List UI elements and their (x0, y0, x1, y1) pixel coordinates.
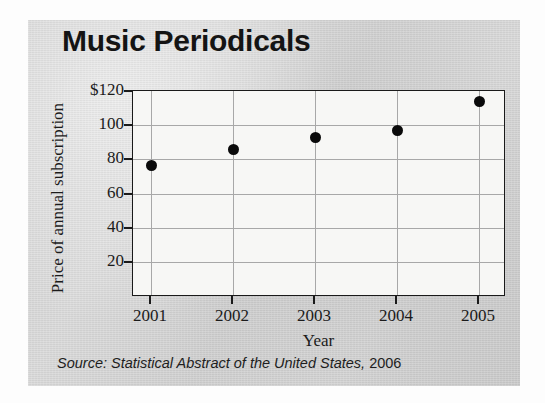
data-point (392, 125, 403, 136)
plot-area (132, 90, 505, 296)
gridline-vertical (479, 91, 480, 295)
gridline-vertical (151, 91, 152, 295)
gridline-horizontal (133, 125, 504, 126)
x-tick-label: 2004 (361, 306, 431, 326)
y-tick-label: $120 (64, 80, 124, 100)
x-tick-label: 2005 (443, 306, 513, 326)
source-note-year: 2006 (369, 355, 401, 371)
x-tick-mark (477, 295, 479, 304)
y-tick-label: 80 (64, 148, 124, 168)
gridline-horizontal (133, 228, 504, 229)
x-tick-mark (313, 295, 315, 304)
y-axis-tick-labels: $120 100 80 60 40 20 (58, 0, 124, 403)
source-note-text: Source: Statistical Abstract of the Unit… (57, 355, 365, 371)
x-tick-mark (149, 295, 151, 304)
gridline-vertical (315, 91, 316, 295)
data-point (474, 96, 485, 107)
data-point (310, 132, 321, 143)
x-axis-label: Year (132, 331, 505, 351)
y-tick-label: 100 (64, 114, 124, 134)
figure-page: Music Periodicals Price of annual subscr… (0, 0, 545, 403)
data-point (228, 144, 239, 155)
data-point (146, 160, 157, 171)
y-tick-label: 60 (64, 183, 124, 203)
gridline-horizontal (133, 194, 504, 195)
gridline-vertical (233, 91, 234, 295)
x-tick-mark (395, 295, 397, 304)
x-tick-label: 2002 (197, 306, 267, 326)
y-tick-label: 20 (64, 251, 124, 271)
x-tick-label: 2001 (115, 306, 185, 326)
source-note: Source: Statistical Abstract of the Unit… (57, 355, 401, 371)
x-tick-mark (231, 295, 233, 304)
gridline-horizontal (133, 262, 504, 263)
gridline-vertical (397, 91, 398, 295)
y-tick-label: 40 (64, 217, 124, 237)
gridline-horizontal (133, 159, 504, 160)
x-tick-label: 2003 (279, 306, 349, 326)
